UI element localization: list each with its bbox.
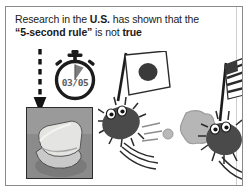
small-ball-icon xyxy=(163,129,173,139)
headline-line1-part2: has shown that the xyxy=(110,13,199,25)
stopwatch-icon: 03/05 xyxy=(50,49,100,101)
headline-line2-part2: is not xyxy=(92,26,122,38)
bread-slice-photo xyxy=(26,107,93,179)
headline-true-emphasis: true xyxy=(122,26,141,38)
comic-panel: Research in the U.S. has shown that the … xyxy=(5,6,243,186)
headline-rule-emphasis: “5-second rule” xyxy=(15,26,92,38)
page-title: Research in the U.S. has shown that the … xyxy=(15,13,237,39)
bacteria-scene xyxy=(98,51,243,185)
japan-flag-icon xyxy=(118,51,170,101)
headline-line1-part1: Research in the xyxy=(15,13,90,25)
usa-flag-icon xyxy=(220,58,243,121)
headline-us-emphasis: U.S. xyxy=(90,13,110,25)
stopwatch-display: 03/05 xyxy=(50,77,100,88)
motion-lines-icon xyxy=(142,123,162,141)
